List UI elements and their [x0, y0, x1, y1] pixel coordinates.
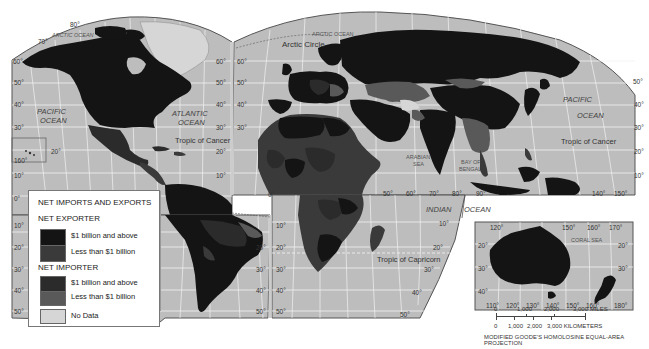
map-legend: NET IMPORTS AND EXPORTS NET EXPORTER $1 … — [28, 190, 160, 310]
lobe-australia — [475, 222, 633, 310]
deg-label: 20° — [634, 148, 644, 155]
deg-label: 40° — [14, 287, 24, 294]
deg-label: 40° — [634, 101, 644, 108]
deg-label: 50° — [237, 79, 247, 86]
scale-tick — [533, 317, 534, 320]
deg-label: 50° — [383, 190, 393, 197]
deg-label: 40° — [216, 101, 226, 108]
scale-miles-3000: 3,000 MILES — [573, 306, 608, 312]
label-arctic-circle: Arctic Circle — [282, 40, 325, 49]
legend-label-importer-high: $1 billion and above — [71, 278, 138, 287]
deg-label: 160° — [587, 224, 600, 231]
label-atlantic-1: ATLANTIC — [172, 109, 208, 118]
deg-label: 50° — [14, 79, 24, 86]
scale-tick — [526, 314, 527, 317]
scale-tick — [554, 314, 555, 317]
scale-bar: 0 1,000 2,000 3,000 MILES 0 1,000 2,000 … — [488, 306, 608, 336]
label-bay-bengal-2: BENGAL — [459, 166, 481, 172]
deg-label: 20° — [51, 148, 61, 155]
deg-label: 40° — [412, 289, 422, 296]
deg-label: 30° — [14, 124, 24, 131]
deg-label: 20° — [618, 242, 628, 249]
label-arabian-sea-1: ARABIAN — [406, 154, 430, 160]
label-atlantic-2: OCEAN — [178, 118, 205, 127]
deg-label: 30° — [634, 124, 644, 131]
deg-label: 170° — [609, 224, 622, 231]
deg-label: 10° — [14, 222, 24, 229]
legend-label-exporter-low: Less than $1 billion — [71, 247, 135, 256]
legend-swatch-no-data — [40, 309, 66, 324]
scale-km-0: 0 — [494, 323, 497, 329]
deg-label: 30° — [14, 266, 24, 273]
deg-label: 50° — [276, 308, 286, 315]
deg-label: 60° — [406, 190, 416, 197]
deg-label: 10° — [439, 220, 449, 227]
label-coral-sea: CORAL SEA — [571, 237, 602, 243]
scale-tick — [551, 317, 552, 320]
label-pacific-right-2: OCEAN — [577, 111, 604, 120]
label-arctic-ocean-left: ARCTIC OCEAN — [52, 32, 94, 38]
deg-label: 50° — [256, 308, 266, 315]
projection-caption: MODIFIED GOODE'S HOMOLOSINE EQUAL-AREA P… — [484, 334, 649, 346]
label-ocean-indian: OCEAN — [464, 205, 491, 214]
deg-label: 140° — [592, 190, 605, 197]
deg-label: 40° — [14, 101, 24, 108]
label-indian: INDIAN — [426, 205, 451, 214]
deg-label: 120° — [490, 224, 503, 231]
deg-label: 90° — [476, 190, 486, 197]
label-pacific-left-2: OCEAN — [40, 116, 67, 125]
label-tropic-cancer-left: Tropic of Cancer — [175, 136, 230, 145]
scale-miles-2000: 2,000 — [544, 306, 559, 312]
legend-swatch-importer-low — [40, 291, 66, 306]
deg-label: 70° — [38, 38, 48, 45]
label-arabian-sea-2: SEA — [413, 161, 424, 167]
deg-label: 30° — [216, 124, 226, 131]
deg-label: 0° — [268, 191, 274, 198]
label-tropic-cancer-right: Tropic of Cancer — [561, 137, 616, 146]
label-tropic-capricorn: Tropic of Capricorn — [377, 255, 441, 264]
deg-label: 30° — [618, 265, 628, 272]
deg-label: 50° — [14, 308, 24, 315]
deg-label: 150° — [562, 224, 575, 231]
scale-miles-1000: 1,000 — [517, 306, 532, 312]
deg-label: 50° — [633, 78, 643, 85]
deg-label: 180° — [614, 302, 627, 309]
label-arctic-ocean-right: ARCTIC OCEAN — [312, 31, 354, 37]
deg-label: 20° — [276, 244, 286, 251]
label-pacific-left-1: PACIFIC — [37, 107, 66, 116]
deg-label: 40° — [276, 287, 286, 294]
deg-label: 30° — [478, 265, 488, 272]
deg-label: 20° — [433, 244, 443, 251]
legend-label-exporter-high: $1 billion and above — [71, 231, 138, 240]
scale-km-2000: 2,000 — [527, 323, 542, 329]
scale-line — [496, 316, 586, 317]
deg-label: 60° — [216, 58, 226, 65]
legend-label-no-data: No Data — [71, 311, 99, 320]
scale-tick — [514, 317, 515, 320]
deg-label: 80° — [452, 190, 462, 197]
legend-title: NET IMPORTS AND EXPORTS — [38, 198, 151, 207]
legend-heading-exporter: NET EXPORTER — [38, 214, 100, 223]
deg-label: 60° — [13, 58, 23, 65]
deg-label: 20° — [478, 242, 488, 249]
scale-miles-0: 0 — [494, 306, 497, 312]
deg-label: 0° — [14, 195, 20, 202]
deg-label: 30° — [256, 266, 266, 273]
scale-tick — [585, 313, 586, 320]
label-pacific-right-1: PACIFIC — [563, 95, 592, 104]
legend-no-data-row: No Data — [28, 309, 160, 327]
deg-label: 30° — [424, 266, 434, 273]
label-bay-bengal-1: BAY OF — [461, 159, 481, 165]
scale-km-1000: 1,000 — [508, 323, 523, 329]
deg-label: 40° — [237, 101, 247, 108]
legend-heading-importer: NET IMPORTER — [38, 263, 98, 272]
deg-label: 150° — [614, 190, 627, 197]
deg-label: 30° — [276, 266, 286, 273]
scale-km-3000: 3,000 KILOMETERS — [547, 323, 602, 329]
deg-label: 160° — [14, 157, 27, 164]
deg-label: 50° — [216, 79, 226, 86]
deg-label: 10° — [634, 172, 644, 179]
deg-label: 20° — [256, 244, 266, 251]
deg-label: 10° — [276, 222, 286, 229]
deg-label: 20° — [14, 244, 24, 251]
